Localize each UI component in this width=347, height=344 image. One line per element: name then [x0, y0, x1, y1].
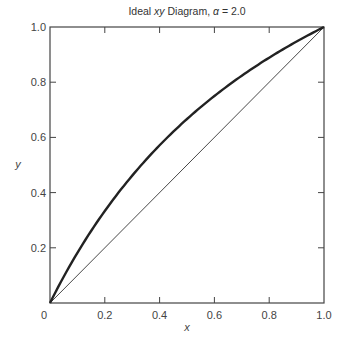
x-tick-label: 0.2 — [97, 309, 112, 321]
y-tick-label: 0.2 — [31, 242, 46, 254]
y-tick-label: 1.0 — [31, 21, 46, 33]
y-axis-label: y — [14, 158, 22, 170]
x-axis-label: x — [183, 321, 190, 333]
x-tick-label: 0.6 — [207, 309, 222, 321]
chart-title: Ideal xy Diagram, α = 2.0 — [128, 5, 245, 17]
x-tick-label: 0 — [41, 309, 47, 321]
diagonal-line — [50, 27, 324, 303]
x-tick-label: 0.8 — [262, 309, 277, 321]
x-tick-label: 0.4 — [152, 309, 167, 321]
y-tick-label: 0.6 — [31, 131, 46, 143]
y-tick-label: 0.4 — [31, 187, 46, 199]
y-tick-label: 0.8 — [31, 76, 46, 88]
xy-diagram-chart: Ideal xy Diagram, α = 2.0 00.20.40.60.81… — [0, 0, 347, 344]
x-tick-label: 1.0 — [316, 309, 331, 321]
